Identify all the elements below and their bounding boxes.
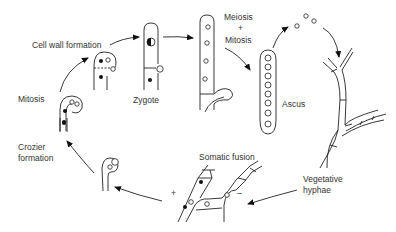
arrow-meiosis-to-ascus (225, 48, 250, 70)
mature-ascus (260, 50, 276, 134)
vegetative-hyphae (320, 48, 386, 168)
label-crozier: Crozier (18, 142, 46, 152)
label-hyphae: hyphae (303, 185, 331, 195)
label-cell-wall-formation: Cell wall formation (32, 40, 102, 50)
crozier-formation (102, 158, 118, 191)
life-cycle-diagram: Cell wall formation Mitosis Zygote Meios… (0, 0, 396, 232)
arrow-mitosis-to-cellwall (60, 58, 88, 92)
label-mitosis-2: Mitosis (225, 35, 251, 45)
label-formation: formation (18, 153, 54, 163)
label-mating-plus: + (171, 188, 176, 198)
arrow-fusion-to-crozier (115, 187, 162, 201)
arrow-spores-to-hyphae (323, 28, 339, 57)
zygote-cell (144, 23, 163, 90)
arrow-hyphae-to-fusion (248, 190, 297, 204)
label-meiosis: Meiosis (224, 12, 253, 22)
arrow-ascus-to-spores (273, 27, 288, 48)
ascospores (295, 14, 316, 28)
crozier-cell-wall-formation (94, 52, 116, 90)
label-plus: + (238, 23, 243, 33)
crozier-mitosis (60, 96, 82, 131)
label-somatic-fusion: Somatic fusion (199, 152, 255, 162)
arrow-cellwall-to-zygote (110, 37, 139, 45)
arrow-crozier-to-mitosis-up (67, 141, 94, 173)
somatic-fusion-hyphae (178, 161, 262, 222)
arrow-zygote-to-meiosis (163, 37, 193, 38)
label-vegetative: Vegetative (303, 174, 343, 184)
label-mating-minus: – (237, 188, 242, 198)
label-ascus: Ascus (282, 99, 305, 109)
developing-ascus (200, 15, 233, 112)
label-zygote: Zygote (133, 95, 159, 105)
label-mitosis: Mitosis (18, 94, 44, 104)
